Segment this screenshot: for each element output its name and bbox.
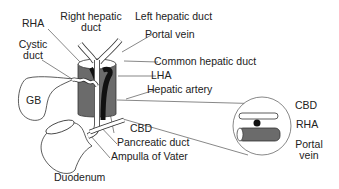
label-rha: RHA <box>22 18 44 29</box>
label-duodenum: Duodenum <box>54 172 105 183</box>
label-lha: LHA <box>151 70 171 81</box>
biliary-anatomy-diagram: RHA Right hepatic duct Left hepatic duct… <box>0 0 339 189</box>
label-right-hepatic-duct: Right hepatic duct <box>56 11 126 33</box>
label-cystic-duct: Cystic duct <box>16 39 50 61</box>
label-pancreatic-duct: Pancreatic duct <box>117 137 189 148</box>
inset-label-rha: RHA <box>296 119 318 130</box>
label-common-hepatic-duct: Common hepatic duct <box>154 56 256 67</box>
inset-cbd <box>239 113 278 119</box>
label-hepatic-artery: Hepatic artery <box>147 84 212 95</box>
label-gb: GB <box>26 95 41 106</box>
label-cbd: CBD <box>130 123 152 134</box>
inset-portal-vein <box>238 128 280 141</box>
inset-rha <box>254 120 261 127</box>
inset-circle <box>233 97 291 155</box>
inset-label-portal-vein: Portal vein <box>292 139 326 161</box>
left-hepatic-duct <box>99 40 120 62</box>
label-ampulla-of-vater: Ampulla of Vater <box>111 151 188 162</box>
label-left-hepatic-duct: Left hepatic duct <box>135 11 212 22</box>
inset-label-cbd: CBD <box>295 100 317 111</box>
label-portal-vein: Portal vein <box>145 29 195 40</box>
